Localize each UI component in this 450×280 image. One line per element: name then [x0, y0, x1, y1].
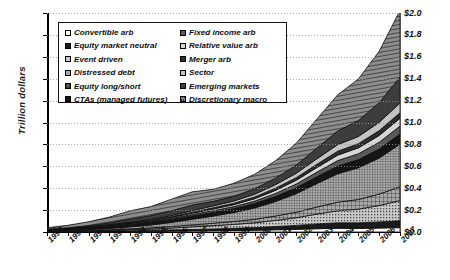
- stacked-area-chart: Trillion dollars: [0, 0, 450, 280]
- y-axis-tick-label: $1.0: [404, 117, 422, 127]
- legend-column-left: Convertible arbEquity market neutralEven…: [65, 26, 167, 106]
- legend-item-label: CTAs (managed futures): [74, 95, 167, 104]
- legend-item[interactable]: CTAs (managed futures): [65, 93, 167, 106]
- legend-swatch-icon: [65, 30, 71, 36]
- legend-swatch-icon: [180, 96, 186, 102]
- legend-item-label: Discretionary macro: [189, 95, 267, 104]
- legend-swatch-icon: [180, 30, 186, 36]
- legend-swatch-icon: [65, 56, 71, 62]
- legend-item-label: Distressed debt: [74, 68, 135, 77]
- chart-legend: Convertible arbEquity market neutralEven…: [58, 22, 287, 103]
- legend-item-label: Merger arb: [189, 55, 231, 64]
- y-axis-tick-label: $2.0: [404, 8, 422, 18]
- y-axis-tick-label: $0.6: [404, 161, 422, 171]
- y-axis-tick-label: $0.4: [404, 183, 422, 193]
- legend-item[interactable]: Merger arb: [180, 53, 267, 66]
- legend-swatch-icon: [65, 96, 71, 102]
- y-axis-tick-label: $0.2: [404, 205, 422, 215]
- y-axis-tick-label: $1.2: [404, 95, 422, 105]
- legend-item[interactable]: Sector: [180, 66, 267, 79]
- legend-item-label: Equity long/short: [74, 82, 141, 91]
- legend-item-label: Convertible arb: [74, 28, 133, 37]
- legend-item[interactable]: Emerging markets: [180, 80, 267, 93]
- legend-item[interactable]: Event driven: [65, 53, 167, 66]
- legend-item-label: Emerging markets: [189, 82, 260, 91]
- y-axis-title: Trillion dollars: [16, 46, 27, 156]
- legend-item-label: Equity market neutral: [74, 41, 157, 50]
- y-axis-tick-label: $0.8: [404, 139, 422, 149]
- y-axis-tick-label: $1.8: [404, 29, 422, 39]
- legend-item[interactable]: Discretionary macro: [180, 93, 267, 106]
- legend-swatch-icon: [180, 83, 186, 89]
- legend-item-label: Relative value arb: [189, 41, 258, 50]
- legend-item[interactable]: Equity market neutral: [65, 39, 167, 52]
- y-axis-tick-label: $1.4: [404, 73, 422, 83]
- legend-item[interactable]: Distressed debt: [65, 66, 167, 79]
- legend-item[interactable]: Convertible arb: [65, 26, 167, 39]
- legend-swatch-icon: [65, 83, 71, 89]
- legend-swatch-icon: [65, 70, 71, 76]
- legend-swatch-icon: [65, 43, 71, 49]
- x-axis-tick-labels: 1990199119921993199419951996199719981999…: [0, 232, 450, 280]
- legend-item-label: Fixed income arb: [189, 28, 256, 37]
- legend-item-label: Event driven: [74, 55, 123, 64]
- x-axis-tick-label: 2007: [399, 225, 418, 244]
- legend-item[interactable]: Relative value arb: [180, 39, 267, 52]
- legend-item-label: Sector: [189, 68, 214, 77]
- legend-swatch-icon: [180, 56, 186, 62]
- y-axis-tick-label: $1.6: [404, 51, 422, 61]
- legend-swatch-icon: [180, 43, 186, 49]
- legend-item[interactable]: Equity long/short: [65, 80, 167, 93]
- legend-swatch-icon: [180, 70, 186, 76]
- legend-column-right: Fixed income arbRelative value arbMerger…: [180, 26, 267, 106]
- legend-item[interactable]: Fixed income arb: [180, 26, 267, 39]
